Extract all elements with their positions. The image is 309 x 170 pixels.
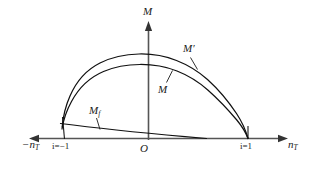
x-axis-right-label-sub: T [294, 143, 298, 152]
leader-m [167, 71, 173, 83]
curve-label-m-prime-mark: ′ [192, 42, 194, 54]
curve-m-f [61, 124, 207, 139]
x-axis-left-label: −nT [22, 139, 39, 150]
curve-label-m-prime-text: M [183, 42, 192, 54]
curve-label-m-prime: M′ [183, 43, 195, 54]
x-axis-left-label-text: −n [22, 138, 35, 150]
origin-label: O [140, 143, 148, 154]
arrow-up-icon [145, 21, 152, 31]
x-axis-left-label-sub: T [35, 143, 39, 152]
y-axis-label: M [143, 6, 152, 17]
tick-label-i-plus-1: i=1 [240, 142, 252, 151]
curve-label-m-f: Mf [89, 105, 100, 116]
interaction-diagram-figure: M nT −nT O i=−1 i=1 M′ M Mf [0, 0, 309, 170]
arrow-right-icon [278, 135, 288, 142]
curve-m-prime [62, 54, 248, 139]
curve-label-m-f-sub: f [98, 109, 100, 118]
curve-label-m-f-text: M [89, 104, 98, 116]
tick-label-i-minus-1: i=−1 [52, 142, 69, 151]
x-axis-right-label: nT [288, 139, 298, 150]
diagram-canvas [0, 0, 309, 170]
curve-label-m: M [158, 84, 167, 95]
x-axis-right-label-text: n [288, 138, 294, 150]
tick-marks [63, 117, 249, 139]
